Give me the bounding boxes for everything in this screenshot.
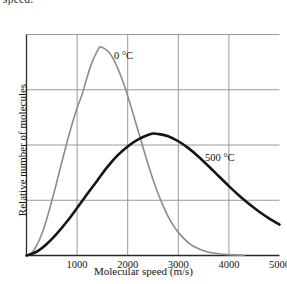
x-axis-title: Molecular speed (m/s)	[0, 265, 287, 277]
x-tick-label: 3000	[168, 259, 189, 270]
x-tick-label: 4000	[218, 259, 239, 270]
series-label-500c: 500 °C	[205, 152, 235, 163]
x-tick-label: 1000	[67, 259, 88, 270]
series-label-0c: 0 °C	[114, 50, 133, 61]
plot-canvas	[0, 0, 287, 284]
maxwell-boltzmann-distribution-figure: speed. Molecular speed (m/s) Relative nu…	[0, 0, 287, 284]
series-curves	[27, 47, 280, 256]
y-axis-title: Relative number of molecules	[16, 50, 28, 250]
horizontal-gridlines	[27, 35, 280, 201]
x-tick-label: 2000	[117, 259, 138, 270]
x-tick-label: 5000	[269, 259, 287, 270]
